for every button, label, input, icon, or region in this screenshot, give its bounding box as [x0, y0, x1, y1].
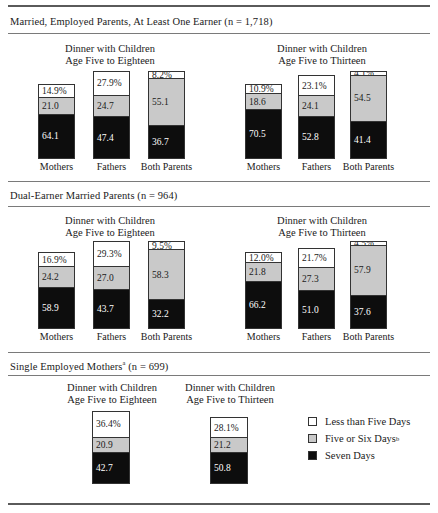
- rule-above-panel3-title: [8, 352, 430, 353]
- panel-title-single-mothers: Single Employed Mothersa (n = 699): [10, 359, 168, 372]
- rule-under-panel3-title: [8, 375, 430, 376]
- cat-label-p2-b-both-parents: Both Parents: [336, 331, 401, 342]
- cat-label-p2-a-mothers: Mothers: [30, 331, 83, 342]
- bar-segment-seven: 43.7: [94, 290, 129, 328]
- rule-top: [8, 5, 430, 7]
- panel-title-dual-earner: Dual-Earner Married Parents (n = 964): [10, 190, 177, 201]
- bar-p1-b-both-parents: 4.1% 54.5 41.4: [350, 71, 387, 159]
- rule-under-panel2-title: [8, 206, 430, 207]
- cat-label-p1-a-both-parents: Both Parents: [134, 161, 199, 172]
- bar-segment-five-or-six: 20.9: [93, 438, 129, 453]
- bar-p2-b-mothers: 12.0% 21.8 66.2: [245, 252, 282, 329]
- bar-segment-less-than-five: 9.5%: [149, 242, 184, 250]
- bar-segment-seven: 70.5: [246, 110, 281, 158]
- bar-segment-five-or-six: 57.9: [351, 246, 386, 296]
- bar-segment-five-or-six: 24.7: [94, 96, 129, 117]
- legend-item-five-or-six-days: Five or Six Daysb: [308, 430, 410, 447]
- panel-title-married-employed: Married, Employed Parents, At Least One …: [10, 16, 272, 27]
- bar-segment-five-or-six: 21.2: [211, 438, 247, 453]
- cat-label-p2-b-mothers: Mothers: [237, 331, 290, 342]
- group-header-p2-age-5-18: Dinner with Children Age Five to Eightee…: [20, 215, 200, 238]
- legend-item-less-than-five-days: Less than Five Days: [308, 413, 410, 430]
- bar-p1-b-mothers: 10.9% 18.6 70.5: [245, 84, 282, 159]
- bar-p1-a-both-parents: 8.2% 55.1 36.7: [148, 71, 185, 159]
- bar-segment-less-than-five: 27.9%: [94, 72, 129, 96]
- cat-label-p2-a-fathers: Fathers: [85, 331, 138, 342]
- bar-segment-less-than-five: 16.9%: [39, 253, 74, 267]
- figure-root: Married, Employed Parents, At Least One …: [0, 0, 438, 513]
- group-header-line2: Age Five to Eighteen: [20, 55, 200, 67]
- bar-segment-seven: 41.4: [351, 122, 386, 158]
- panel-title-text: Single Employed Mothers: [10, 361, 123, 372]
- group-header-line1: Dinner with Children: [232, 215, 412, 227]
- bar-p2-a-both-parents: 9.5% 58.3 32.2: [148, 241, 185, 329]
- cat-label-p1-a-fathers: Fathers: [85, 161, 138, 172]
- cat-label-p1-b-both-parents: Both Parents: [336, 161, 401, 172]
- bar-segment-five-or-six: 24.2: [39, 267, 74, 288]
- legend-label: Seven Days: [325, 450, 375, 461]
- bar-p2-a-fathers: 29.3% 27.0 43.7: [93, 241, 130, 329]
- legend-item-seven-days: Seven Days: [308, 447, 410, 464]
- legend-swatch-gray-icon: [308, 434, 317, 443]
- bar-segment-less-than-five: 10.9%: [246, 85, 281, 94]
- group-header-line2: Age Five to Thirteen: [232, 227, 412, 239]
- bar-segment-five-or-six: 24.1: [299, 96, 334, 117]
- group-header-p3-age-5-13: Dinner with Children Age Five to Thirtee…: [140, 382, 320, 405]
- bar-segment-seven: 52.8: [299, 117, 334, 158]
- bar-p1-b-fathers: 23.1% 24.1 52.8: [298, 75, 335, 159]
- group-header-p1-age-5-18: Dinner with Children Age Five to Eightee…: [20, 43, 200, 66]
- bar-segment-seven: 51.0: [299, 291, 334, 328]
- bar-segment-seven: 32.2: [149, 300, 184, 328]
- group-header-p1-age-5-13: Dinner with Children Age Five to Thirtee…: [232, 43, 412, 66]
- bar-segment-seven: 64.1: [39, 115, 74, 158]
- bar-segment-five-or-six: 18.6: [246, 94, 281, 110]
- group-header-p2-age-5-13: Dinner with Children Age Five to Thirtee…: [232, 215, 412, 238]
- bar-p3-b-single-mothers: 28.1% 21.2 50.8: [210, 417, 248, 484]
- bar-segment-less-than-five: 28.1%: [211, 418, 247, 438]
- legend-label: Five or Six Days: [325, 433, 396, 444]
- panel-title-tail: (n = 699): [126, 361, 169, 372]
- bar-segment-five-or-six: 21.8: [246, 263, 281, 282]
- bar-segment-less-than-five: 29.3%: [94, 242, 129, 267]
- bar-segment-less-than-five: 21.7%: [299, 249, 334, 268]
- bar-segment-seven: 37.6: [351, 296, 386, 328]
- group-header-line2: Age Five to Thirteen: [232, 55, 412, 67]
- legend: Less than Five Days Five or Six Daysb Se…: [308, 413, 410, 464]
- bar-segment-seven: 50.8: [211, 453, 247, 483]
- bar-p2-a-mothers: 16.9% 24.2 58.9: [38, 252, 75, 329]
- legend-footnote-marker: b: [396, 435, 399, 442]
- bar-segment-less-than-five: 36.4%: [93, 412, 129, 438]
- legend-swatch-white-icon: [308, 417, 317, 426]
- bar-segment-five-or-six: 21.0: [39, 98, 74, 115]
- bar-p2-b-fathers: 21.7% 27.3 51.0: [298, 248, 335, 329]
- bar-segment-less-than-five: 23.1%: [299, 76, 334, 96]
- group-header-line1: Dinner with Children: [20, 215, 200, 227]
- bar-segment-five-or-six: 27.0: [94, 267, 129, 290]
- group-header-line1: Dinner with Children: [20, 43, 200, 55]
- bar-p2-b-both-parents: 4.5% 57.9 37.6: [350, 241, 387, 329]
- bar-segment-seven: 36.7: [149, 126, 184, 158]
- legend-label: Less than Five Days: [325, 416, 410, 427]
- bar-segment-seven: 66.2: [246, 282, 281, 328]
- group-header-line1: Dinner with Children: [140, 382, 320, 394]
- bar-segment-seven: 42.7: [93, 453, 129, 483]
- bar-p1-a-mothers: 14.9% 21.0 64.1: [38, 84, 75, 159]
- bar-segment-five-or-six: 58.3: [149, 250, 184, 300]
- bar-segment-less-than-five: 8.2%: [149, 72, 184, 79]
- bar-segment-less-than-five: 12.0%: [246, 253, 281, 263]
- rule-bottom: [8, 503, 430, 505]
- bar-segment-seven: 58.9: [39, 288, 74, 328]
- bar-segment-seven: 47.4: [94, 117, 129, 158]
- cat-label-p1-b-mothers: Mothers: [237, 161, 290, 172]
- cat-label-p2-a-both-parents: Both Parents: [134, 331, 199, 342]
- bar-p1-a-fathers: 27.9% 24.7 47.4: [93, 71, 130, 159]
- bar-segment-five-or-six: 27.3: [299, 268, 334, 291]
- bar-segment-less-than-five: 14.9%: [39, 85, 74, 97]
- group-header-line1: Dinner with Children: [232, 43, 412, 55]
- group-header-line2: Age Five to Thirteen: [140, 394, 320, 406]
- bar-segment-five-or-six: 54.5: [351, 76, 386, 123]
- legend-swatch-black-icon: [308, 451, 317, 460]
- group-header-line2: Age Five to Eighteen: [20, 227, 200, 239]
- cat-label-p1-a-mothers: Mothers: [30, 161, 83, 172]
- bar-p3-a-single-mothers: 36.4% 20.9 42.7: [92, 411, 130, 484]
